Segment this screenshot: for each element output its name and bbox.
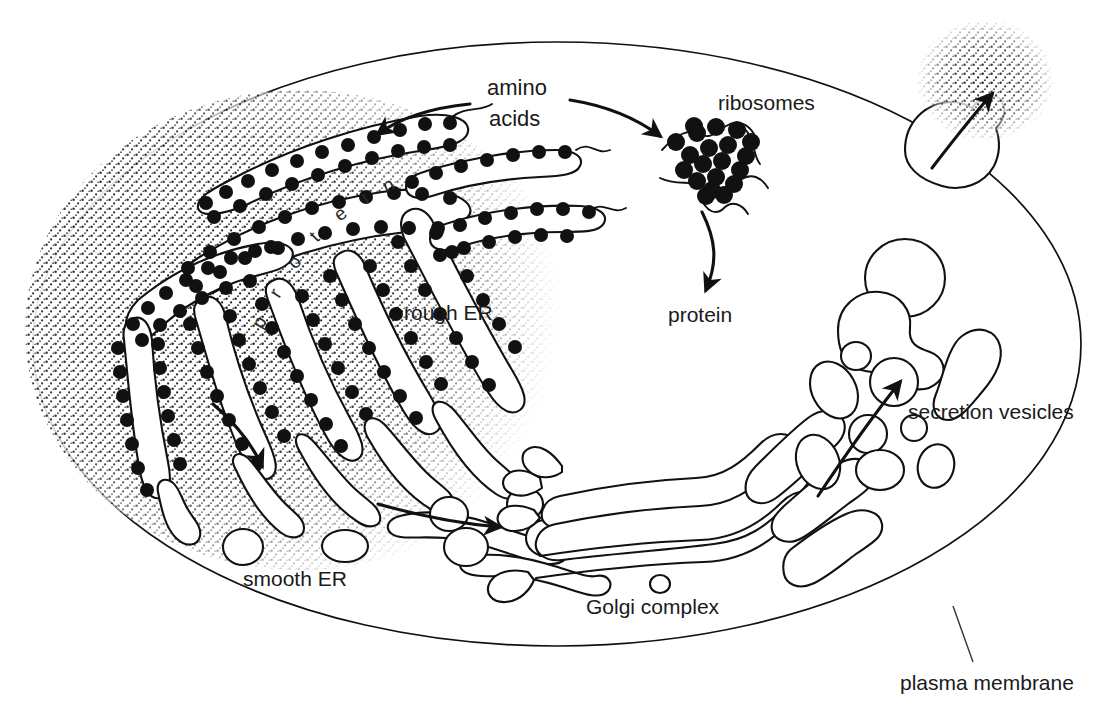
label-golgi-complex: Golgi complex (586, 595, 720, 618)
label-smooth-er: smooth ER (243, 567, 347, 590)
label-ribosomes: ribosomes (718, 91, 815, 114)
label-plasma-membrane: plasma membrane (900, 671, 1074, 694)
leader-line-plasma-membrane (953, 606, 973, 662)
released-protein-stipple (917, 20, 1053, 140)
label-protein: protein (668, 303, 732, 326)
cell-diagram-canvas: protein p r o t e i n (0, 0, 1115, 721)
label-secretion-vesicles: secretion vesicles (908, 400, 1074, 423)
label-amino-acids-line1: amino (487, 75, 547, 100)
label-rough-er: rough ER (404, 301, 493, 324)
exocytosis-site (905, 20, 1053, 188)
label-amino-acids-line2: acids (489, 106, 540, 131)
cell-diagram-svg: protein p r o t e i n (0, 0, 1115, 721)
